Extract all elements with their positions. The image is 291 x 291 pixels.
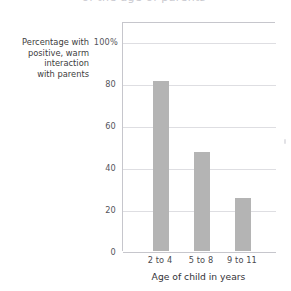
y-axis-title: Percentage with positive, warm interacti… bbox=[4, 37, 89, 79]
y-tick-label-60: 60 bbox=[84, 122, 116, 130]
y-axis-title-line-1: Percentage with bbox=[4, 37, 89, 48]
y-axis-title-line-3: interaction bbox=[4, 58, 89, 69]
y-tick-label-40: 40 bbox=[84, 164, 116, 172]
y-tick-label-100: 100% bbox=[84, 38, 118, 46]
plot-area bbox=[122, 22, 275, 251]
bar-2-to-4[interactable] bbox=[153, 81, 169, 251]
gridline-60 bbox=[123, 127, 276, 128]
y-axis-title-line-2: positive, warm bbox=[4, 48, 89, 59]
x-tick-label-9-to-11: 9 to 11 bbox=[215, 256, 269, 265]
y-tick-label-0: 0 bbox=[84, 248, 116, 256]
y-tick-label-80: 80 bbox=[84, 80, 116, 88]
cut-off-heading-text: of the age of parents bbox=[82, 0, 206, 4]
y-tick-label-20: 20 bbox=[84, 206, 116, 214]
scan-speck bbox=[284, 139, 286, 144]
gridline-80 bbox=[123, 85, 276, 86]
y-axis-title-line-4: with parents bbox=[4, 69, 89, 80]
bar-5-to-8[interactable] bbox=[194, 152, 210, 251]
x-axis-title: Age of child in years bbox=[122, 272, 275, 282]
x-axis-baseline bbox=[123, 252, 276, 253]
bar-9-to-11[interactable] bbox=[235, 198, 251, 251]
cut-off-heading-sliver: of the age of parents bbox=[0, 0, 291, 7]
gridline-100 bbox=[123, 43, 276, 44]
